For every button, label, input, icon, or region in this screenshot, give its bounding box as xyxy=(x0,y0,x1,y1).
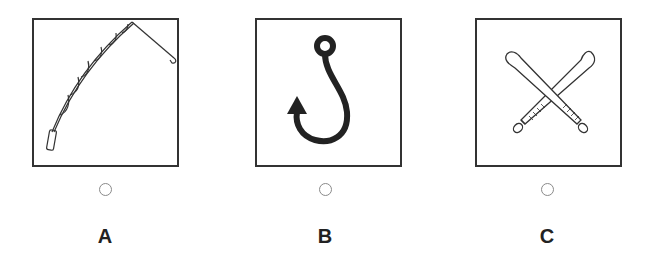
option-a: A xyxy=(32,0,182,267)
option-c-label: C xyxy=(532,225,562,248)
option-c: C xyxy=(475,0,625,267)
option-b-label: B xyxy=(310,225,340,248)
crossed-baseball-bats-icon xyxy=(477,20,620,165)
option-a-radio[interactable] xyxy=(99,183,112,196)
option-b-image-box[interactable] xyxy=(255,18,402,167)
option-c-image-box[interactable] xyxy=(475,18,622,167)
option-a-image-box[interactable] xyxy=(32,18,179,167)
option-b: B xyxy=(255,0,405,267)
option-a-label: A xyxy=(90,225,120,248)
option-c-radio[interactable] xyxy=(541,183,554,196)
fish-hook-icon xyxy=(257,20,400,165)
option-b-radio[interactable] xyxy=(319,183,332,196)
fishing-rod-icon xyxy=(34,20,177,165)
